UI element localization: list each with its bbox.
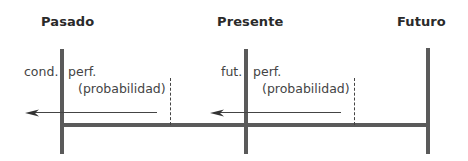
past-right-label-line2: (probabilidad) xyxy=(78,81,166,96)
present-arrow-line xyxy=(215,112,341,113)
past-arrow-line xyxy=(30,112,157,113)
present-arrowhead-icon xyxy=(210,108,224,118)
timeline-diagram: Pasado Presente Futuro cond. perf. (prob… xyxy=(0,0,468,161)
past-dashed-reference-line xyxy=(170,78,171,125)
present-left-label: fut. xyxy=(221,64,242,79)
past-marker-bar xyxy=(60,49,64,154)
heading-past: Pasado xyxy=(41,14,94,29)
heading-future: Futuro xyxy=(397,14,446,29)
present-dashed-reference-line xyxy=(354,78,355,125)
heading-present: Presente xyxy=(217,14,283,29)
past-left-label: cond. xyxy=(24,64,58,79)
present-right-label-line1: perf. xyxy=(253,64,281,79)
past-arrowhead-icon xyxy=(25,108,39,118)
past-right-label-line1: perf. xyxy=(68,64,96,79)
future-marker-bar xyxy=(426,48,430,154)
timeline-axis xyxy=(62,123,428,127)
present-right-label-line2: (probabilidad) xyxy=(262,81,350,96)
present-marker-bar xyxy=(244,49,248,154)
